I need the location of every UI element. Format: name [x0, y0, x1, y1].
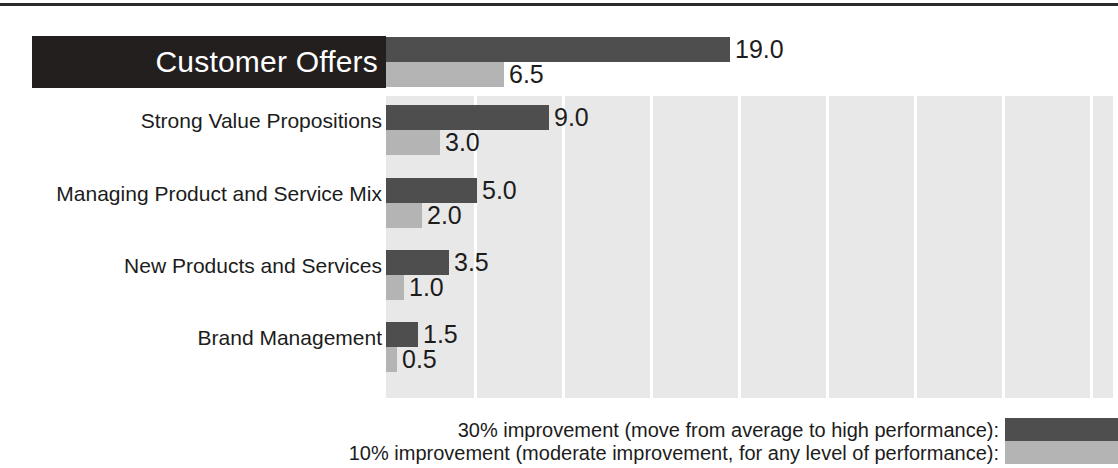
top-divider-rule [0, 3, 1118, 6]
gridline-4 [738, 96, 741, 398]
bar-value-light-managing-product-and-service-mix: 2.0 [427, 203, 462, 228]
legend-label-30-percent-improvement: 30% improvement (move from average to hi… [0, 420, 1005, 440]
category-label-brand-management: Brand Management [0, 327, 382, 348]
legend-swatch-dark [1005, 418, 1118, 441]
category-label-strong-value-propositions: Strong Value Propositions [0, 110, 382, 131]
gridline-6 [914, 96, 917, 398]
bar-light-brand-management [386, 347, 397, 372]
bar-light-managing-product-and-service-mix [386, 203, 422, 228]
bar-light-strong-value-propositions [386, 130, 440, 155]
gridline-8 [1090, 96, 1093, 398]
bar-value-light-customer-offers: 6.5 [509, 62, 544, 87]
bar-value-dark-strong-value-propositions: 9.0 [554, 105, 589, 130]
bar-value-light-brand-management: 0.5 [402, 347, 437, 372]
category-label-managing-product-and-service-mix: Managing Product and Service Mix [0, 183, 382, 204]
plot-area [386, 96, 1113, 398]
legend-row-dark: 30% improvement (move from average to hi… [0, 418, 1118, 441]
bar-value-dark-brand-management: 1.5 [423, 322, 458, 347]
legend-label-10-percent-improvement: 10% improvement (moderate improvement, f… [0, 443, 1005, 463]
bar-light-new-products-and-services [386, 275, 404, 300]
bar-value-dark-customer-offers: 19.0 [735, 37, 784, 62]
bar-value-light-strong-value-propositions: 3.0 [445, 130, 480, 155]
bar-dark-managing-product-and-service-mix [386, 178, 477, 203]
chart-canvas: Customer Offers 19.0 6.5 Strong Value Pr… [0, 0, 1118, 468]
gridline-7 [1002, 96, 1005, 398]
gridline-5 [826, 96, 829, 398]
bar-dark-customer-offers [386, 37, 730, 62]
chart-legend: 30% improvement (move from average to hi… [0, 416, 1118, 464]
gridline-2 [562, 96, 565, 398]
bar-value-dark-new-products-and-services: 3.5 [454, 250, 489, 275]
bar-dark-strong-value-propositions [386, 105, 549, 130]
category-label-new-products-and-services: New Products and Services [0, 255, 382, 276]
gridline-3 [650, 96, 653, 398]
highlight-banner-customer-offers: Customer Offers [32, 36, 386, 88]
bar-light-customer-offers [386, 62, 504, 87]
legend-swatch-light [1005, 441, 1118, 464]
highlight-banner-label: Customer Offers [155, 47, 378, 77]
bar-value-light-new-products-and-services: 1.0 [409, 275, 444, 300]
bar-value-dark-managing-product-and-service-mix: 5.0 [482, 178, 517, 203]
bar-dark-new-products-and-services [386, 250, 449, 275]
bar-dark-brand-management [386, 322, 418, 347]
legend-row-light: 10% improvement (moderate improvement, f… [0, 441, 1118, 464]
